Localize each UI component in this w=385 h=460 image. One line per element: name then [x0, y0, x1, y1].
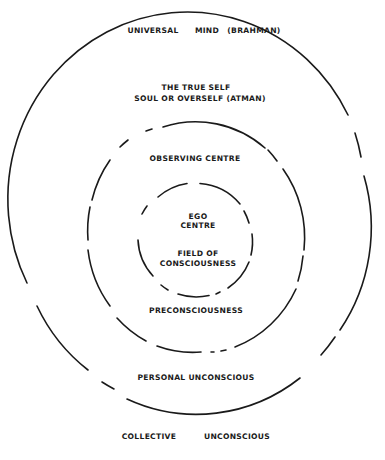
label-centre: CENTRE	[180, 221, 215, 231]
label-true-self: THE TRUE SELF	[162, 83, 231, 93]
label-observing-centre: OBSERVING CENTRE	[150, 154, 241, 164]
label-brahman: (BRAHMAN)	[227, 26, 280, 36]
label-unconscious: UNCONSCIOUS	[204, 432, 270, 442]
label-universal: UNIVERSAL	[127, 26, 178, 36]
inner-ring	[138, 184, 253, 297]
label-field-of: FIELD OF	[177, 249, 218, 259]
label-personal-unconscious: PERSONAL UNCONSCIOUS	[137, 373, 254, 383]
label-soul-overself: SOUL OR OVERSELF (ATMAN)	[134, 94, 265, 104]
label-mind: MIND	[195, 26, 219, 36]
label-preconsciousness: PRECONSCIOUSNESS	[149, 306, 243, 316]
label-collective: COLLECTIVE	[122, 432, 177, 442]
label-consciousness: CONSCIOUSNESS	[160, 259, 236, 269]
